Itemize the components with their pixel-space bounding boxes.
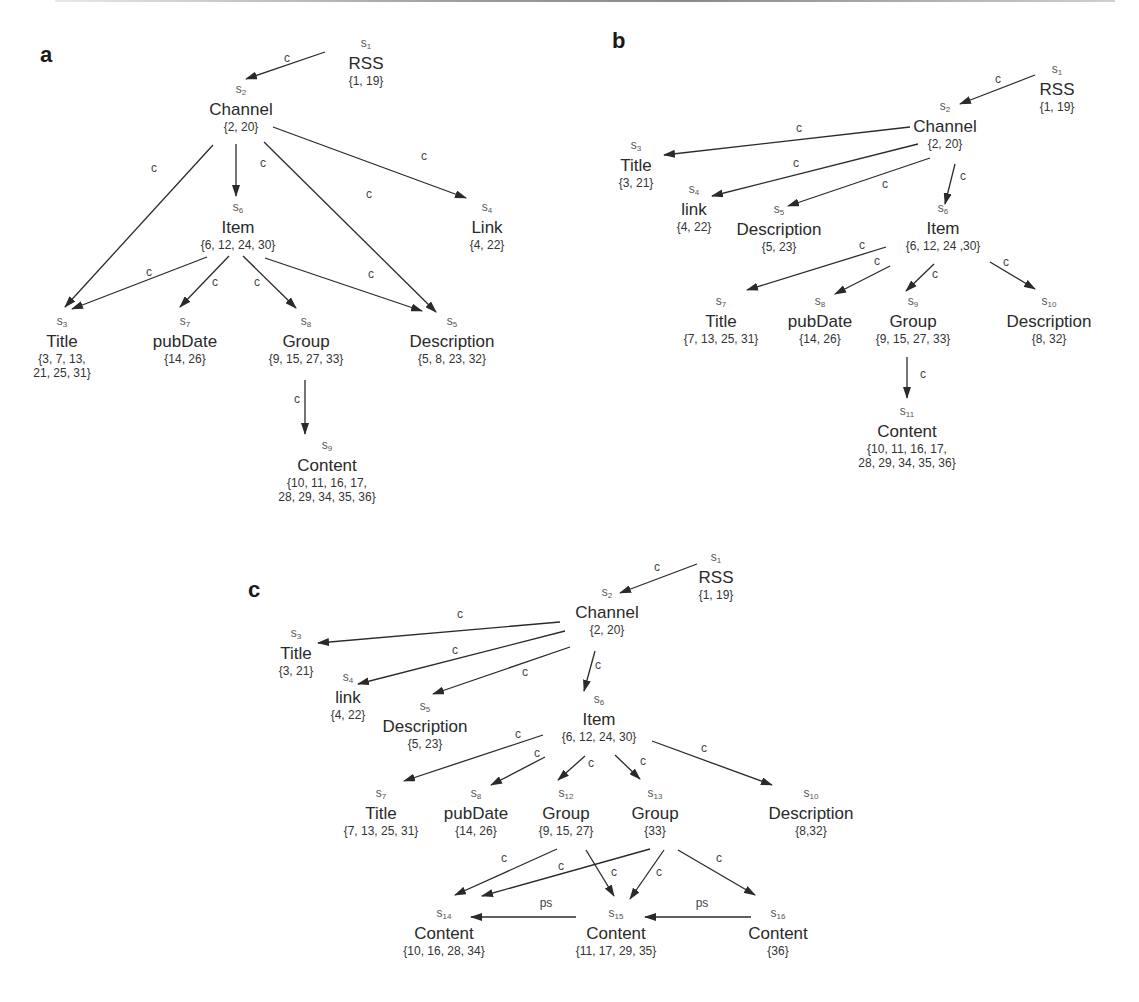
edge-a-s6-s3	[72, 257, 207, 309]
node-c-s3-title: s3 Title {3, 21}	[279, 626, 314, 678]
edge-label-b-s1-s2: c	[995, 72, 1001, 86]
node-c-s10-description: s10 Description {8,32}	[768, 786, 853, 838]
node-c-s4-link: s4 link {4, 22}	[331, 670, 366, 722]
edge-label-c-s2-s6: c	[595, 658, 601, 672]
edge-c-s2-s6	[584, 651, 595, 691]
edge-b-s2-s6	[945, 164, 955, 204]
edge-label-a-s2-s3: c	[151, 161, 157, 175]
edge-b-s2-s3	[664, 127, 910, 155]
node-c-s14-content: s14 Content {10, 16, 28, 34}	[403, 906, 484, 958]
edge-b-s2-s5	[788, 158, 930, 206]
edge-c-s13-s14	[482, 849, 650, 896]
edge-label-c-s1-s2: c	[654, 560, 660, 574]
edge-b-s6-s9	[906, 264, 934, 291]
edge-label-b-s2-s6: c	[960, 169, 966, 183]
edge-c-s6-s12	[558, 756, 585, 780]
edge-a-s6-s7	[180, 256, 229, 307]
node-b-s5-description: s5 Description {5, 23}	[736, 202, 821, 254]
edge-label-a-s2-s6: c	[260, 156, 266, 170]
node-c-s5-description: s5 Description {5, 23}	[382, 699, 467, 751]
node-b-s9-group: s9 Group {9, 15, 27, 33}	[876, 294, 951, 346]
node-b-s11-content: s11 Content {10, 11, 16, 17, 28, 29, 34,…	[858, 404, 955, 470]
edge-a-s6-s8	[243, 256, 296, 308]
edge-label-c-s2-s4: c	[452, 643, 458, 657]
edge-label-c-s13-s16: c	[716, 851, 722, 865]
node-c-s2-channel: s2 Channel {2, 20}	[575, 585, 638, 637]
edge-c-s6-s13	[615, 755, 640, 779]
edge-label-b-s9-s11: c	[920, 367, 926, 381]
edge-label-c-s13-s14: c	[558, 859, 564, 873]
node-a-s5-description: s5 Description {5, 8, 23, 32}	[409, 314, 494, 366]
node-a-s7-pubdate: s7 pubDate {14, 26}	[153, 314, 217, 366]
node-a-s6-item: s6 Item {6, 12, 24, 30}	[201, 200, 276, 252]
node-b-s6-item: s6 Item {6, 12, 24 ,30}	[906, 201, 981, 253]
edge-label-c-s12-s15: c	[611, 865, 617, 879]
node-c-s1-rss: s1 RSS {1, 19}	[699, 550, 734, 602]
edge-label-c-s2-s5: c	[522, 665, 528, 679]
edge-label-b-s6-s8: c	[874, 254, 880, 268]
edge-label-c-s13-s15: c	[656, 865, 662, 879]
edge-label-c-s6-s13: c	[640, 754, 646, 768]
edge-label-c-s6-s7: c	[515, 727, 521, 741]
edge-c-s2-s4	[358, 631, 565, 684]
edge-label-a-s6-s3: c	[146, 265, 152, 279]
edge-label-c-s6-s8: c	[534, 746, 540, 760]
edge-label-b-s6-s7: c	[859, 238, 865, 252]
node-c-s16-content: s16 Content {36}	[748, 906, 808, 958]
node-a-s2-channel: s2 Channel {2, 20}	[209, 82, 272, 134]
edge-label-c-s15-s14: ps	[540, 896, 553, 910]
edge-label-c-s2-s3: c	[457, 607, 463, 621]
node-a-s3-title: s3 Title {3, 7, 13, 21, 25, 31}	[33, 314, 90, 380]
edge-label-b-s6-s9: c	[932, 267, 938, 281]
node-c-s15-content: s15 Content {11, 17, 29, 35}	[576, 906, 657, 958]
edge-label-b-s2-s5: c	[882, 177, 888, 191]
node-b-s10-description: s10 Description {8, 32}	[1006, 294, 1091, 346]
node-a-s1-rss: s1 RSS {1, 19}	[349, 36, 384, 88]
edge-label-a-s6-s8: c	[254, 275, 260, 289]
node-b-s8-pubdate: s8 pubDate {14, 26}	[788, 294, 852, 346]
edge-label-b-s2-s3: c	[796, 121, 802, 135]
edge-c-s6-s10	[652, 741, 772, 785]
node-b-s2-channel: s2 Channel {2, 20}	[913, 99, 976, 151]
node-c-s12-group: s12 Group {9, 15, 27}	[539, 786, 594, 838]
edge-label-a-s6-s5: c	[368, 267, 374, 281]
edge-label-a-s8-s9: c	[294, 392, 300, 406]
node-a-s8-group: s8 Group {9, 15, 27, 33}	[269, 314, 344, 366]
node-b-s7-title: s7 Title {7, 13, 25, 31}	[684, 294, 759, 346]
node-c-s13-group: s13 Group {33}	[631, 786, 678, 838]
edge-label-b-s6-s10: c	[1003, 255, 1009, 269]
edge-label-c-s12-s14: c	[501, 851, 507, 865]
node-c-s8-pubdate: s8 pubDate {14, 26}	[444, 786, 508, 838]
edge-label-c-s6-s12: c	[588, 756, 594, 770]
node-c-s6-item: s6 Item {6, 12, 24, 30}	[562, 692, 637, 744]
edge-label-a-s2-s5: c	[366, 187, 372, 201]
edge-c-s2-s3	[318, 622, 560, 643]
node-a-s4-link: s4 Link {4, 22}	[470, 200, 505, 252]
edge-a-s6-s5	[265, 258, 422, 311]
panel-label-b: b	[612, 28, 625, 54]
edge-b-s6-s8	[835, 266, 890, 294]
edge-label-c-s16-s15: ps	[696, 896, 709, 910]
edge-label-a-s6-s7: c	[212, 275, 218, 289]
panel-label-c: c	[248, 577, 260, 603]
edge-label-a-s2-s4: c	[421, 149, 427, 163]
edge-c-s6-s8	[491, 757, 545, 785]
panel-label-a: a	[40, 42, 52, 68]
node-b-s3-title: s3 Title {3, 21}	[619, 138, 654, 190]
edge-label-b-s2-s4: c	[793, 156, 799, 170]
edge-label-a-s1-s2: c	[284, 51, 290, 65]
edge-b-s6-s10	[990, 262, 1035, 289]
edge-label-c-s6-s10: c	[701, 741, 707, 755]
node-c-s7-title: s7 Title {7, 13, 25, 31}	[344, 786, 419, 838]
node-b-s4-link: s4 link {4, 22}	[677, 182, 712, 234]
node-a-s9-content: s9 Content {10, 11, 16, 17, 28, 29, 34, …	[278, 438, 375, 504]
node-b-s1-rss: s1 RSS {1, 19}	[1040, 62, 1075, 114]
edge-c-s12-s15	[586, 850, 614, 896]
